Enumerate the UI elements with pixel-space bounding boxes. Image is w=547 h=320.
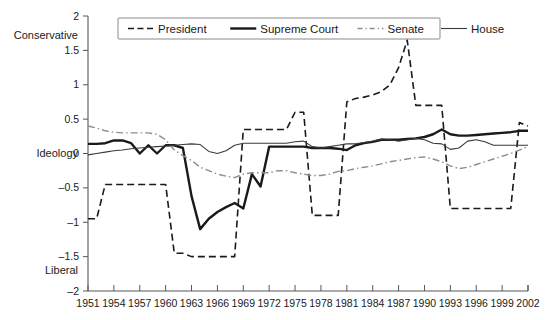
x-tick-label: 1963 xyxy=(180,297,204,309)
x-tick-label: 2002 xyxy=(516,297,540,309)
legend-label-supreme-court: Supreme Court xyxy=(260,23,339,35)
x-tick-label: 1990 xyxy=(413,297,437,309)
y-tick-label: –0.5 xyxy=(59,181,80,193)
x-tick-label: 1987 xyxy=(387,297,411,309)
y-tick-label: 0.5 xyxy=(64,113,79,125)
x-tick-label: 1954 xyxy=(102,297,126,309)
ideology-line-chart: 21.510.50–0.5–1–1.5–2 195119541957196019… xyxy=(0,0,547,320)
x-tick-label: 1999 xyxy=(490,297,514,309)
x-tick-label: 1993 xyxy=(439,297,463,309)
y-tick-label: –1 xyxy=(67,216,79,228)
y-tick-label: 1 xyxy=(73,78,79,90)
x-tick-label: 1981 xyxy=(335,297,359,309)
x-tick-label: 1978 xyxy=(309,297,333,309)
legend-label-house: House xyxy=(471,23,504,35)
x-tick-label: 1951 xyxy=(76,297,100,309)
x-tick-label: 1957 xyxy=(128,297,152,309)
chart-background xyxy=(0,0,547,320)
y-tick-label: 1.5 xyxy=(64,44,79,56)
x-tick-label: 1996 xyxy=(465,297,489,309)
y-tick-label: –1.5 xyxy=(59,250,80,262)
chart-figure: 21.510.50–0.5–1–1.5–2 195119541957196019… xyxy=(0,0,547,320)
legend-label-president: President xyxy=(158,23,207,35)
x-tick-label: 1960 xyxy=(154,297,178,309)
y-tick-label: –2 xyxy=(67,285,79,297)
legend-label-senate: Senate xyxy=(388,23,424,35)
annotation-ideology: Ideology xyxy=(36,147,78,159)
x-tick-label: 1975 xyxy=(283,297,307,309)
annotation-liberal: Liberal xyxy=(45,264,78,276)
annotation-conservative: Conservative xyxy=(14,29,78,41)
x-tick-label: 1984 xyxy=(361,297,385,309)
y-tick-label: 2 xyxy=(73,10,79,22)
x-tick-label: 1966 xyxy=(206,297,230,309)
x-tick-label: 1972 xyxy=(257,297,281,309)
x-tick-label: 1969 xyxy=(232,297,256,309)
